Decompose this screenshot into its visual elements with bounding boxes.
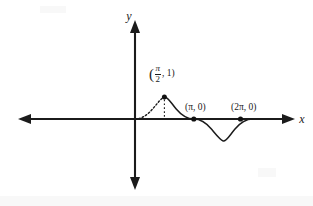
label-two-pi-zero: (2π, 0): [231, 102, 256, 113]
x-axis-right-arrowhead: [282, 114, 295, 124]
vertical-axis: [130, 20, 140, 190]
fraction-denominator: 2: [155, 75, 162, 85]
y-axis-bottom-arrowhead: [130, 177, 140, 190]
point-dot-pi-over-2: [162, 95, 167, 100]
point-dot-pi: [191, 116, 196, 121]
sine-graph-figure: y x (π, 0) (2π, 0) ( π 2 , 1): [0, 0, 313, 206]
coordinate-plane-svg: y x (π, 0) (2π, 0): [0, 0, 313, 206]
x-axis-label: x: [298, 112, 305, 126]
point-dot-two-pi: [238, 116, 243, 121]
label-peak-pi-over-two-one: ( π 2 , 1): [149, 64, 175, 84]
fraction-pi-over-two: π 2: [155, 64, 162, 84]
label-pi-zero: (π, 0): [185, 102, 206, 113]
y-axis-label: y: [125, 9, 132, 23]
fraction-numerator: π: [155, 64, 162, 74]
sine-curve-dotted-segment: [135, 97, 164, 119]
x-axis-left-arrowhead: [18, 114, 31, 124]
label-peak-tail: , 1): [162, 69, 175, 79]
horizontal-axis: [18, 114, 295, 124]
label-open-paren: (: [149, 67, 154, 82]
